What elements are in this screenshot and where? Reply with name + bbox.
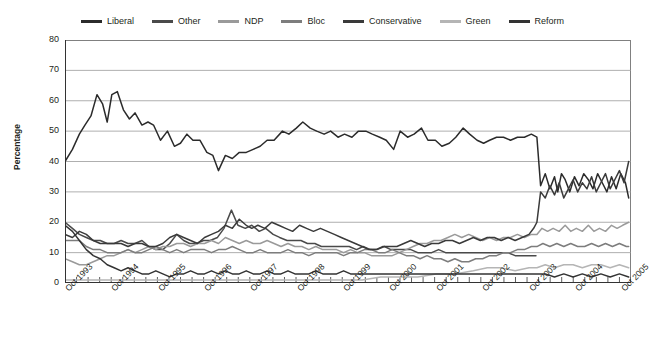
y-tick-label: 50: [35, 125, 59, 135]
legend-item-conservative[interactable]: Conservative: [343, 17, 422, 26]
legend-item-liberal[interactable]: Liberal: [81, 17, 134, 26]
legend-label: Green: [466, 17, 491, 26]
legend-item-ndp[interactable]: NDP: [218, 17, 263, 26]
legend-label: Liberal: [107, 17, 134, 26]
y-axis-tick-labels: 80706050403020100: [33, 40, 59, 283]
y-axis-title: Percentage: [12, 107, 22, 187]
legend-label: NDP: [244, 17, 263, 26]
plot-svg: [65, 40, 631, 283]
legend-swatch-icon: [152, 20, 173, 23]
y-tick-label: 80: [35, 34, 59, 44]
legend-item-bloc[interactable]: Bloc: [281, 17, 325, 26]
y-tick-label: 10: [35, 247, 59, 257]
y-tick-label: 20: [35, 216, 59, 226]
plot-area: [65, 40, 631, 283]
x-axis-tick-labels: Oct 1993Oct 1994Oct 1995Oct 1996Oct 1997…: [65, 286, 631, 340]
legend-item-green[interactable]: Green: [440, 17, 491, 26]
y-tick-label: 70: [35, 64, 59, 74]
y-tick-label: 0: [35, 277, 59, 287]
legend-label: Reform: [535, 17, 565, 26]
legend-swatch-icon: [343, 20, 364, 23]
chart-legend: LiberalOtherNDPBlocConservativeGreenRefo…: [0, 13, 645, 29]
legend-swatch-icon: [509, 20, 530, 23]
y-tick-label: 40: [35, 156, 59, 166]
legend-swatch-icon: [281, 20, 302, 23]
y-tick-label: 60: [35, 95, 59, 105]
legend-label: Conservative: [369, 17, 422, 26]
legend-swatch-icon: [440, 20, 461, 23]
y-tick-label: 30: [35, 186, 59, 196]
legend-swatch-icon: [81, 20, 102, 23]
legend-label: Bloc: [307, 17, 325, 26]
legend-item-reform[interactable]: Reform: [509, 17, 565, 26]
legend-swatch-icon: [218, 20, 239, 23]
legend-label: Other: [178, 17, 201, 26]
legend-item-other[interactable]: Other: [152, 17, 201, 26]
